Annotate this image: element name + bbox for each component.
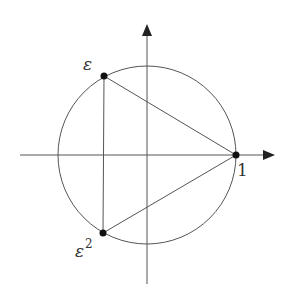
label-one: 1: [237, 160, 248, 180]
label-epsilon: ε: [83, 54, 92, 74]
label-epsilon-squared-exponent: 2: [85, 237, 93, 251]
imaginary-axis-arrow-icon: [142, 24, 152, 36]
point-one: [233, 152, 240, 159]
point-epsilon-squared: [100, 230, 107, 237]
label-epsilon-squared-base: ε: [75, 241, 84, 261]
real-axis-arrow-icon: [263, 150, 275, 160]
point-epsilon: [101, 73, 108, 80]
roots-of-unity-diagram: 1 ε ε 2: [0, 0, 285, 289]
diagram-svg: 1 ε ε 2: [0, 0, 285, 289]
